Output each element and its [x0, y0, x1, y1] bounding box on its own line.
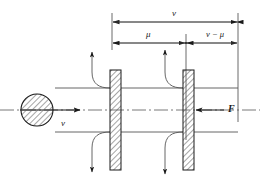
hatched-circle — [21, 94, 53, 126]
streamline-deflect-down-left — [92, 132, 110, 172]
figure-canvas: v μ v − μ v F — [0, 0, 260, 195]
plate-right — [183, 70, 194, 170]
streamline-deflect-down-right — [165, 132, 183, 174]
streamline-deflect-up-right — [165, 50, 183, 88]
dimension-break-marker — [185, 42, 187, 44]
label-total-span: v — [172, 9, 176, 18]
label-first-span: μ — [146, 30, 151, 39]
label-second-span: v − μ — [206, 30, 224, 39]
streamline-deflect-up-left — [92, 52, 110, 88]
plate-left — [110, 70, 121, 170]
label-velocity: v — [61, 119, 65, 128]
label-force: F — [228, 104, 235, 114]
